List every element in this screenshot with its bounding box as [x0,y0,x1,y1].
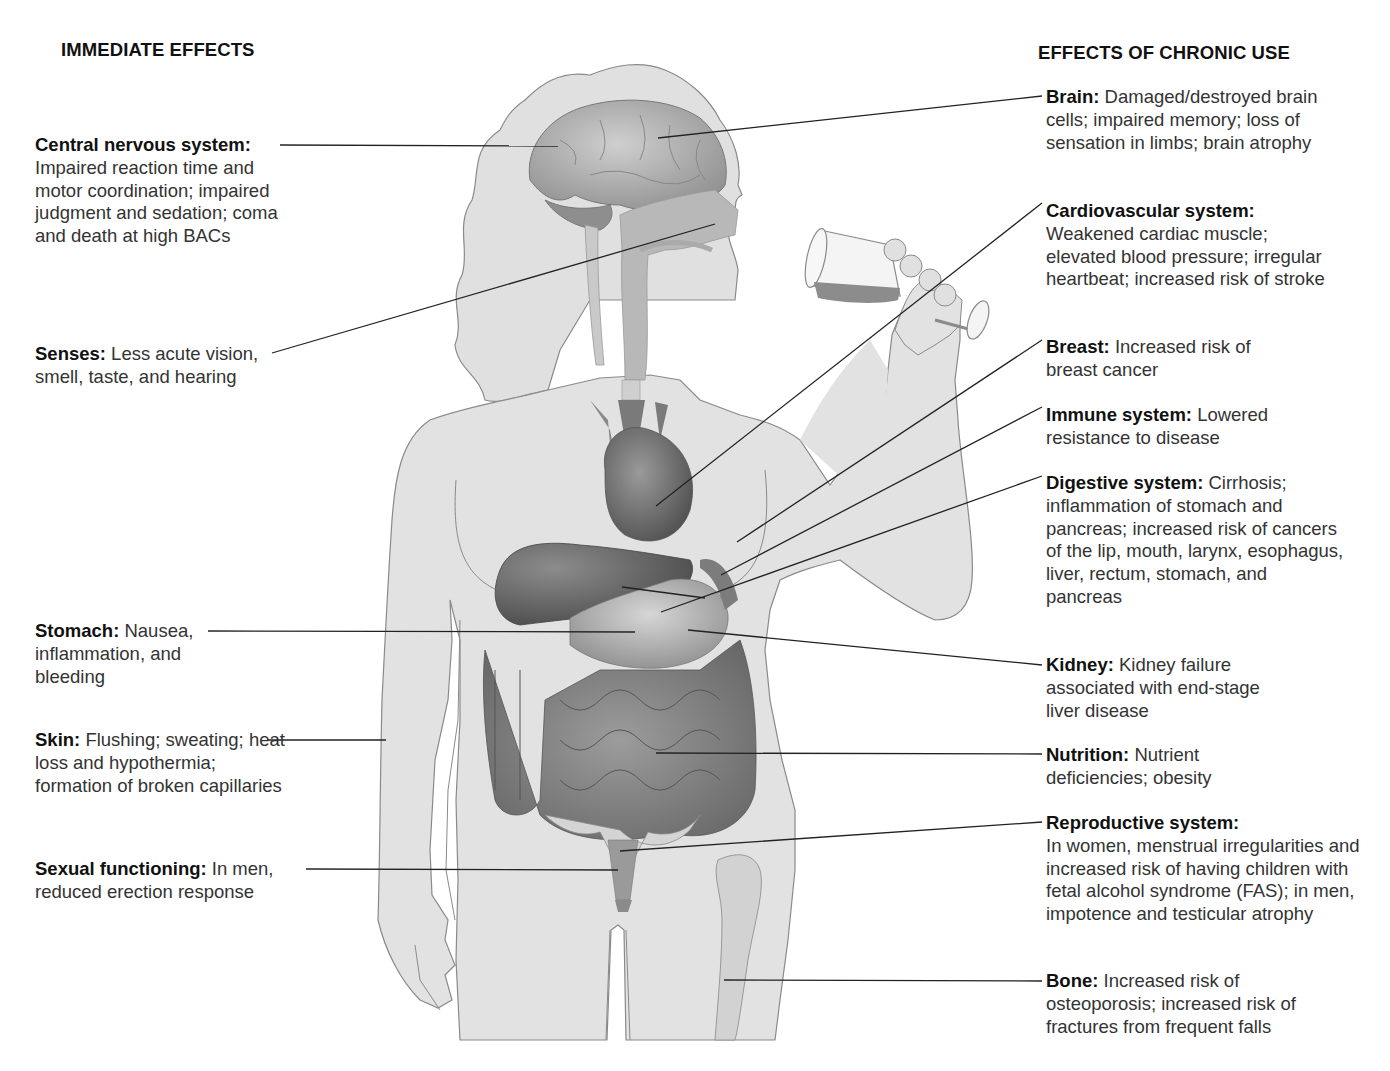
leader-brain [658,96,1042,138]
term: Central nervous system: [35,134,251,155]
term: Bone: [1046,970,1098,991]
leader-breast [737,340,1042,542]
leader-stomach [208,631,635,632]
stomach [570,559,738,668]
leader-digestive-liver [622,587,705,598]
leader-lines [208,96,1042,981]
label-central-nervous-system: Central nervous system: Impaired reactio… [35,134,290,248]
leader-bone [724,980,1042,981]
label-sexual-functioning: Sexual functioning: In men, reduced erec… [35,858,310,904]
heart [590,400,693,541]
heading-immediate-effects: IMMEDIATE EFFECTS [61,39,255,61]
leader-senses [272,224,715,353]
label-senses: Senses: Less acute vision, smell, taste,… [35,343,280,389]
label-breast: Breast: Increased risk of breast cancer [1046,336,1286,382]
description: Impaired reaction time and motor coordin… [35,157,278,246]
arm-with-glass [800,227,993,490]
leader-kidney [688,630,1042,665]
term: Breast: [1046,336,1110,357]
head-silhouette [455,65,742,402]
label-immune-system: Immune system: Lowered resistance to dis… [1046,404,1311,450]
heading-chronic-effects: EFFECTS OF CHRONIC USE [1038,42,1290,64]
body-silhouette [378,285,972,1040]
term: Senses: [35,343,106,364]
term: Nutrition: [1046,744,1129,765]
label-digestive-system: Digestive system: Cirrhosis; inflammatio… [1046,472,1346,609]
leader-nutrition [656,753,1042,754]
term: Brain: [1046,86,1099,107]
leader-cns [280,145,558,146]
spinal-cord-and-throat [585,190,738,400]
term: Stomach: [35,620,119,641]
wine-glass-icon [801,227,993,342]
label-stomach: Stomach: Nausea, inflammation, and bleed… [35,620,210,688]
term: Sexual functioning: [35,858,207,879]
label-kidney: Kidney: Kidney failure associated with e… [1046,654,1296,722]
term: Digestive system: [1046,472,1203,493]
description: Weakened cardiac muscle; elevated blood … [1046,223,1325,290]
label-reproductive-system: Reproductive system: In women, menstrual… [1046,812,1376,926]
brain [529,100,726,230]
leader-cardiovascular [656,203,1042,506]
reproductive-organs [545,815,700,912]
femur-bone [715,855,761,1040]
description: In women, menstrual irregularities and i… [1046,835,1376,926]
intestines [483,640,756,840]
liver [495,543,692,625]
label-bone: Bone: Increased risk of osteoporosis; in… [1046,970,1336,1038]
term: Kidney: [1046,654,1114,675]
leader-reproductive [620,822,1042,851]
label-nutrition: Nutrition: Nutrient deficiencies; obesit… [1046,744,1246,790]
term: Cardiovascular system: [1046,200,1255,221]
label-brain: Brain: Damaged/destroyed brain cells; im… [1046,86,1321,154]
label-skin: Skin: Flushing; sweating; heat loss and … [35,729,285,797]
term: Immune system: [1046,404,1192,425]
term: Skin: [35,729,80,750]
label-cardiovascular-system: Cardiovascular system: Weakened cardiac … [1046,200,1326,291]
leader-immune [721,407,1042,575]
term: Reproductive system: [1046,812,1239,833]
leader-sexual [306,869,618,870]
leader-digestive [661,476,1042,612]
